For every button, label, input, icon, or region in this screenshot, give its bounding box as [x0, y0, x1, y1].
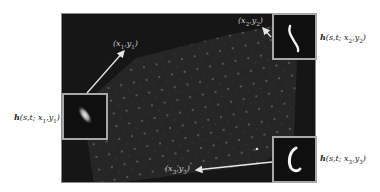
coord-label-1: (x1,y1)	[113, 40, 138, 50]
psf-label-2: h(s,t; x2,y2)	[320, 33, 366, 44]
psf-args-1: (s,t; x1,y1)	[20, 113, 60, 122]
psf-label-3: h(s,t; x3,y3)	[320, 154, 366, 165]
coord-text-3: (x3,y3)	[165, 164, 190, 173]
coord-text-1: (x1,y1)	[113, 39, 138, 48]
coord-text-2: (x2,y2)	[238, 16, 263, 25]
arrow-2	[263, 28, 271, 37]
psf-fn-2: h	[320, 32, 326, 42]
psf-fn-3: h	[320, 153, 326, 163]
psf-label-1: h(s,t; x1,y1)	[14, 113, 60, 124]
psf-fn-1: h	[14, 112, 20, 122]
psf-args-2: (s,t; x2,y2)	[326, 33, 366, 42]
psf-args-3: (s,t; x3,y3)	[326, 154, 366, 163]
arrow-1	[87, 51, 124, 93]
coord-label-3: (x3,y3)	[165, 165, 190, 175]
coord-label-2: (x2,y2)	[238, 17, 263, 27]
psf-diagram: (x1,y1) (x2,y2) (x3,y3) h(s,t; x1,y1) h(…	[0, 0, 380, 192]
arrow-3	[196, 162, 272, 170]
